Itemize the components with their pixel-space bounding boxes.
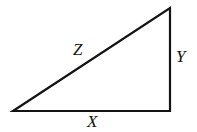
triangle-figure: Z Y X — [0, 0, 197, 132]
triangle-drawing — [0, 0, 197, 132]
right-triangle-outline — [13, 8, 170, 111]
horizontal-leg-label-x: X — [87, 113, 97, 130]
vertical-leg-label-y: Y — [176, 48, 185, 65]
hypotenuse-label-z: Z — [73, 41, 82, 58]
